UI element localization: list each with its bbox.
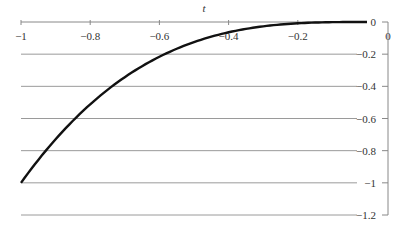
y-tick-label: 0 [371,16,377,28]
y-tick-label: −0.6 [356,113,376,125]
line-chart: −1−0.8−0.6−0.4−0.20 0−0.2−0.4−0.6−0.8−1−… [0,0,406,227]
curve-line [21,22,367,183]
gridlines [21,54,357,215]
y-tick-label: −0.4 [356,80,376,92]
x-tick-label: −0.2 [288,30,308,42]
x-tick-label: −0.6 [149,30,169,42]
y-axis: 0−0.2−0.4−0.6−0.8−1−1.2 [356,16,388,221]
y-tick-label: −1.2 [356,209,376,221]
x-axis-title: t [202,2,206,14]
x-tick-label: −0.8 [80,30,100,42]
series-curve [21,22,367,183]
y-tick-label: −1 [364,177,376,189]
y-tick-label: −0.8 [356,145,376,157]
x-tick-label: −1 [15,30,27,42]
y-tick-label: −0.2 [356,48,376,60]
